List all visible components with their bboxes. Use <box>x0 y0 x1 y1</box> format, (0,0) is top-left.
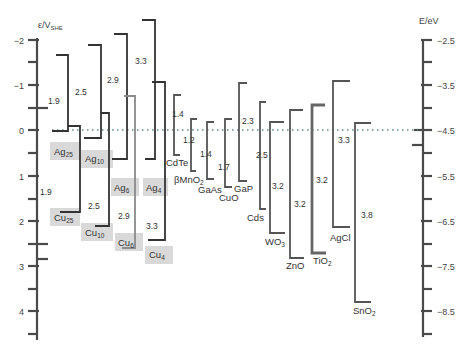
label-tio2: TiO2 <box>313 255 332 267</box>
tick-label: 2 <box>19 217 24 227</box>
bracket-cu4 <box>148 82 165 240</box>
label-cds: Cds <box>247 212 264 223</box>
gap-label: 3.2 <box>316 175 328 185</box>
bracket-wo3 <box>270 122 285 233</box>
semiconductor-name-labels: CdTe βMnO2 GaAs CuO GaP Cds WO3 ZnO TiO2… <box>166 157 376 317</box>
right-axis-tick-labels: −2.5 −3.5 −4.5 −5.5 −6.5 −7.5 −8.5 <box>437 36 455 317</box>
tick-label: −6.5 <box>437 217 455 227</box>
tick-label: 4 <box>19 307 24 317</box>
bracket-agcl <box>333 81 350 227</box>
tick-label: 1 <box>19 172 24 182</box>
right-axis <box>412 40 432 337</box>
label-agcl: AgCl <box>330 232 351 243</box>
tick-label: −3.5 <box>437 81 455 91</box>
semiconductor-gap-labels: 1.4 1.2 1.4 1.7 2.3 2.5 3.2 3.2 3.2 3.3 … <box>172 109 373 220</box>
label-sno2: SnO2 <box>353 305 376 317</box>
gap-label: 2.5 <box>256 150 268 160</box>
gap-label: 1.2 <box>183 135 195 145</box>
tick-label: −4.5 <box>437 126 455 136</box>
gap-label: 3.8 <box>361 210 373 220</box>
tick-label: −1 <box>14 81 24 91</box>
gap-label: 1.7 <box>218 162 230 172</box>
tick-label: −2 <box>14 36 24 46</box>
gap-label: 3.2 <box>294 199 306 209</box>
bracket-cu25 <box>60 126 80 212</box>
gap-label: 3.3 <box>135 56 147 66</box>
gap-label: 3.3 <box>338 135 350 145</box>
gap-label: 2.5 <box>88 201 100 211</box>
gap-label: 3.3 <box>146 221 158 231</box>
gap-label: 1.4 <box>172 109 184 119</box>
gap-label: 2.9 <box>107 75 119 85</box>
cluster-label-boxes <box>50 142 173 264</box>
bracket-zno <box>290 110 304 258</box>
bracket-gap <box>239 83 247 181</box>
gap-label: 2.9 <box>118 211 130 221</box>
tick-label: −5.5 <box>437 172 455 182</box>
gap-label: 3.2 <box>272 181 284 191</box>
label-zno: ZnO <box>286 260 304 271</box>
bracket-bmno2 <box>191 119 197 171</box>
left-axis-title: ε/VSHE <box>38 20 63 31</box>
bracket-ag25 <box>52 55 68 131</box>
label-gap: GaP <box>234 183 253 194</box>
gap-label: 2.5 <box>75 87 87 97</box>
tick-label: 3 <box>19 262 24 272</box>
gap-label: 1.9 <box>40 187 52 197</box>
left-axis-tick-labels: −2 −1 0 1 2 3 4 <box>14 36 24 317</box>
tick-label: −2.5 <box>437 36 455 46</box>
bracket-cu6 <box>122 96 135 248</box>
right-axis-title: E/eV <box>419 16 439 26</box>
gap-label: 1.4 <box>200 149 212 159</box>
bracket-ag4 <box>142 20 155 159</box>
tick-label: −8.5 <box>437 307 455 317</box>
band-diagram: −2 −1 0 1 2 3 4 ε/VSHE −2.5 −3.5 −4.5 −5… <box>0 0 471 355</box>
label-wo3: WO3 <box>265 236 285 248</box>
gap-label: 1.9 <box>48 96 60 106</box>
tick-label: −7.5 <box>437 262 455 272</box>
gap-label: 2.3 <box>242 116 254 126</box>
tick-label: 0 <box>19 126 24 136</box>
label-cdte: CdTe <box>166 157 188 168</box>
bracket-cdte <box>174 95 181 155</box>
